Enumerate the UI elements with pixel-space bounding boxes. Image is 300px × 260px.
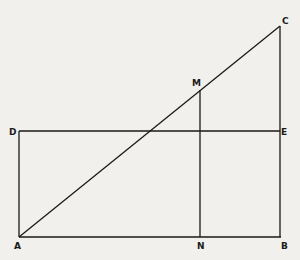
label-e: E bbox=[281, 127, 287, 137]
label-a: A bbox=[14, 241, 21, 251]
label-b: B bbox=[281, 241, 288, 251]
label-d: D bbox=[9, 127, 16, 137]
geometry-diagram: C M D E A N B bbox=[0, 0, 300, 260]
label-n: N bbox=[197, 241, 205, 251]
segments bbox=[19, 26, 281, 237]
label-c: C bbox=[282, 16, 289, 26]
point-labels: C M D E A N B bbox=[9, 16, 289, 251]
label-m: M bbox=[192, 78, 201, 88]
